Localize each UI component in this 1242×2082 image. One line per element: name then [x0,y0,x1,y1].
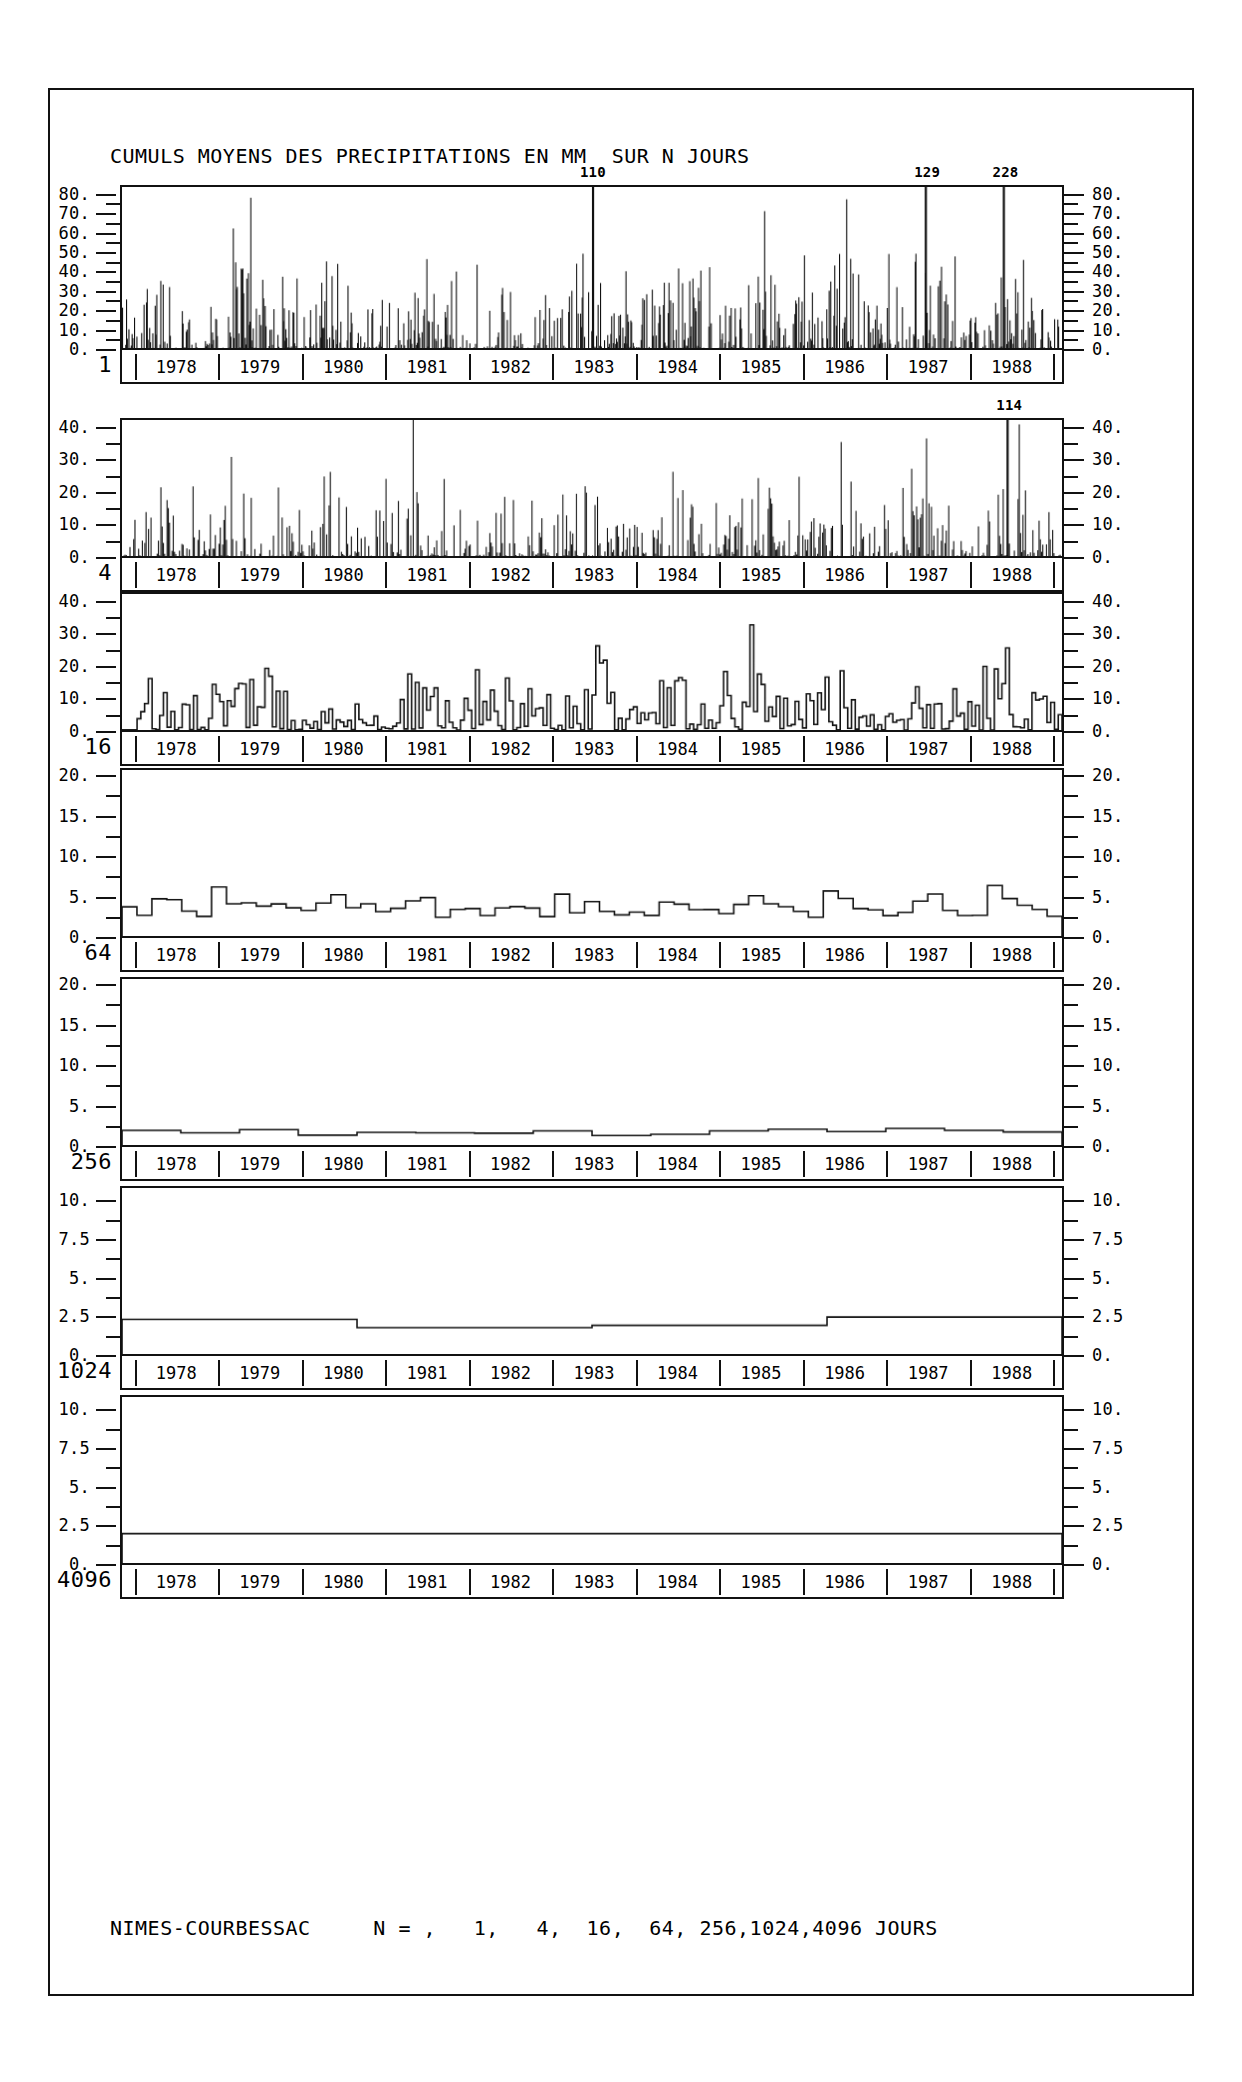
y-minor-tick-left-4096-1 [106,1506,120,1508]
year-label-1980-panel-16: 1980 [302,732,386,766]
y-axis-label-right-16-4: 40. [1092,593,1162,610]
year-label-1988-panel-64: 1988 [970,938,1054,972]
year-label-1988-panel-4: 1988 [970,558,1054,592]
series-canvas-n-16 [122,594,1062,730]
y-tick-right-1024-2 [1064,1278,1084,1280]
year-separator-end-panel-16 [1053,736,1055,762]
y-minor-tick-left-16-2 [106,650,120,652]
y-axis-label-right-4096-2: 5. [1092,1479,1162,1496]
year-label-1979-panel-256: 1979 [218,1147,302,1181]
y-tick-left-1024-2 [96,1278,116,1280]
year-axis-strip-n-4096: 1978197919801981198219831984198519861987… [120,1565,1064,1599]
y-axis-label-right-1-2: 20. [1092,302,1162,319]
y-tick-left-1-3 [96,291,116,293]
y-axis-label-left-256-2: 10. [20,1057,90,1074]
y-axis-label-left-4096-3: 7.5 [20,1440,90,1457]
series-canvas-n-4096 [122,1397,1062,1563]
y-minor-tick-left-1-3 [106,281,120,283]
plot-area-n-64 [120,768,1064,938]
year-label-1979-panel-1: 1979 [218,350,302,384]
y-axis-label-left-16-2: 20. [20,658,90,675]
y-minor-tick-right-256-0 [1064,1126,1078,1128]
y-tick-left-16-4 [96,601,116,603]
year-label-1988-panel-4096: 1988 [970,1565,1054,1599]
year-label-1986-panel-64: 1986 [803,938,887,972]
y-tick-right-4096-2 [1064,1487,1084,1489]
y-axis-label-left-1-5: 50. [20,244,90,261]
year-separator-10-panel-64 [970,942,972,968]
year-label-1984-panel-1024: 1984 [636,1356,720,1390]
y-axis-label-right-1-4: 40. [1092,263,1162,280]
y-tick-left-4-0 [96,557,116,559]
y-axis-label-left-4096-4: 10. [20,1401,90,1418]
y-axis-label-left-1-7: 70. [20,205,90,222]
y-tick-right-64-4 [1064,775,1084,777]
y-axis-label-left-1024-3: 7.5 [20,1231,90,1248]
y-tick-right-1-4 [1064,271,1084,273]
y-tick-left-1024-3 [96,1239,116,1241]
year-label-1987-panel-4: 1987 [886,558,970,592]
y-axis-label-right-64-4: 20. [1092,767,1162,784]
y-axis-label-right-1-8: 80. [1092,186,1162,203]
y-tick-left-4096-2 [96,1487,116,1489]
y-minor-tick-left-16-3 [106,617,120,619]
y-minor-tick-left-4096-2 [106,1467,120,1469]
year-label-1980-panel-64: 1980 [302,938,386,972]
year-separator-3-panel-1024 [385,1360,387,1386]
y-minor-tick-right-1024-1 [1064,1297,1078,1299]
year-separator-5-panel-16 [552,736,554,762]
year-separator-2-panel-1024 [302,1360,304,1386]
year-separator-4-panel-256 [469,1151,471,1177]
y-tick-left-256-1 [96,1106,116,1108]
year-label-1978-panel-4: 1978 [135,558,219,592]
year-separator-8-panel-1 [803,354,805,380]
y-minor-tick-right-1024-2 [1064,1258,1078,1260]
plot-area-n-1024 [120,1186,1064,1356]
y-minor-tick-left-1024-1 [106,1297,120,1299]
y-minor-tick-right-64-1 [1064,876,1078,878]
y-axis-label-left-256-4: 20. [20,976,90,993]
year-label-1988-panel-256: 1988 [970,1147,1054,1181]
y-axis-label-right-64-1: 5. [1092,889,1162,906]
y-minor-tick-left-1-4 [106,262,120,264]
year-separator-2-panel-4096 [302,1569,304,1595]
n-days-label-256: 256 [2,1151,112,1173]
y-axis-label-left-1024-4: 10. [20,1192,90,1209]
year-label-1986-panel-1024: 1986 [803,1356,887,1390]
year-label-1981-panel-4: 1981 [385,558,469,592]
y-tick-right-4-1 [1064,524,1084,526]
series-canvas-n-1 [122,187,1062,348]
year-label-1980-panel-4: 1980 [302,558,386,592]
year-label-1986-panel-4: 1986 [803,558,887,592]
y-axis-label-right-16-3: 30. [1092,625,1162,642]
y-tick-right-1-3 [1064,291,1084,293]
page-title: CUMULS MOYENS DES PRECIPITATIONS EN MM S… [110,144,750,168]
year-label-1978-panel-1: 1978 [135,350,219,384]
year-separator-6-panel-256 [636,1151,638,1177]
y-axis-label-right-16-0: 0. [1092,723,1162,740]
year-label-1987-panel-16: 1987 [886,732,970,766]
year-separator-0-panel-4 [135,562,137,588]
year-separator-5-panel-64 [552,942,554,968]
n-days-label-16: 16 [2,736,112,758]
y-tick-left-4096-0 [96,1564,116,1566]
y-minor-tick-right-256-2 [1064,1045,1078,1047]
year-separator-end-panel-1 [1053,354,1055,380]
y-tick-left-1024-4 [96,1200,116,1202]
panel-n-1024: 0.0.2.52.55.5.7.57.510.10.19781979198019… [120,1186,1064,1390]
year-separator-10-panel-16 [970,736,972,762]
year-separator-1-panel-1 [218,354,220,380]
y-tick-right-256-3 [1064,1025,1084,1027]
y-tick-left-4-4 [96,427,116,429]
y-axis-label-left-256-1: 5. [20,1098,90,1115]
year-label-1981-panel-4096: 1981 [385,1565,469,1599]
year-label-1988-panel-1: 1988 [970,350,1054,384]
panel-n-16: 0.0.10.10.20.20.30.30.40.40.197819791980… [120,592,1064,766]
year-label-1982-panel-4: 1982 [469,558,553,592]
y-minor-tick-right-1-1 [1064,320,1078,322]
y-tick-right-1024-3 [1064,1239,1084,1241]
year-separator-7-panel-1024 [719,1360,721,1386]
y-tick-left-64-3 [96,816,116,818]
y-axis-label-right-1-1: 10. [1092,322,1162,339]
y-tick-right-64-3 [1064,816,1084,818]
